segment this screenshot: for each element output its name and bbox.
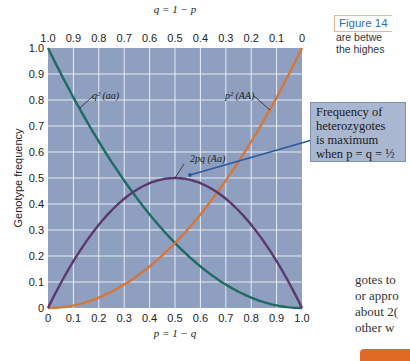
x2-tick: 0.5 bbox=[167, 32, 182, 44]
body-text-3: about 2( bbox=[355, 304, 398, 320]
x2-tick: 0.7 bbox=[117, 32, 132, 44]
y-tick: 0.8 bbox=[29, 94, 44, 106]
y-tick: 0.9 bbox=[29, 68, 44, 80]
x-tick: 0.3 bbox=[117, 312, 132, 324]
y-tick: 1.0 bbox=[29, 42, 44, 54]
side-text-1: are betwe bbox=[336, 31, 382, 43]
x2-tick: 0.8 bbox=[91, 32, 106, 44]
x-tick: 0.6 bbox=[193, 312, 208, 324]
body-text-1: gotes to bbox=[355, 272, 396, 288]
x2-tick: 0.4 bbox=[193, 32, 208, 44]
x-tick: 0.9 bbox=[269, 312, 284, 324]
y-tick: 0.2 bbox=[29, 250, 44, 262]
callout-line-3: is maximum bbox=[316, 133, 405, 147]
y-tick: 0.7 bbox=[29, 120, 44, 132]
y-tick: 0.4 bbox=[29, 198, 44, 210]
x-tick: 0.4 bbox=[142, 312, 157, 324]
AA-curve-label: p² (AA) bbox=[224, 90, 255, 102]
aa-curve-label: q² (aa) bbox=[92, 90, 120, 102]
body-text-4: other w bbox=[355, 320, 394, 336]
x-tick: 0 bbox=[45, 312, 51, 324]
callout-line-1: Frequency of bbox=[316, 105, 405, 119]
bottom-axis-label: p = 1 − q bbox=[153, 327, 197, 339]
y-tick: 0.1 bbox=[29, 276, 44, 288]
callout-line-4: when p = q = ½ bbox=[316, 147, 405, 161]
x2-tick: 0.2 bbox=[244, 32, 259, 44]
figure-label: Figure 14 bbox=[334, 15, 392, 32]
x-tick: 1.0 bbox=[294, 312, 309, 324]
y-tick: 0 bbox=[38, 302, 44, 314]
x-tick: 0.2 bbox=[91, 312, 106, 324]
top-axis-label: q = 1 − p bbox=[154, 3, 197, 15]
y-axis-label: Genotype frequency bbox=[12, 128, 24, 228]
y-tick: 0.3 bbox=[29, 224, 44, 236]
orange-tab-button[interactable] bbox=[360, 349, 410, 361]
x2-tick: 0 bbox=[299, 32, 305, 44]
body-text-2: or appro bbox=[355, 288, 399, 304]
heterozygote-callout: Frequency of heterozygotes is maximum wh… bbox=[310, 102, 406, 162]
x2-tick: 0.9 bbox=[66, 32, 81, 44]
x-tick: 0.5 bbox=[167, 312, 182, 324]
side-text-2: the highes bbox=[336, 43, 384, 55]
y-tick: 0.5 bbox=[29, 172, 44, 184]
x2-tick: 0.1 bbox=[269, 32, 284, 44]
x-tick: 0.8 bbox=[244, 312, 259, 324]
Aa-curve-label: 2pq (Aa) bbox=[190, 153, 226, 165]
x-tick: 0.7 bbox=[218, 312, 233, 324]
callout-line-2: heterozygotes bbox=[316, 119, 405, 133]
y-tick: 0.6 bbox=[29, 146, 44, 158]
x2-tick: 0.3 bbox=[218, 32, 233, 44]
x-tick: 0.1 bbox=[66, 312, 81, 324]
x2-tick: 0.6 bbox=[142, 32, 157, 44]
